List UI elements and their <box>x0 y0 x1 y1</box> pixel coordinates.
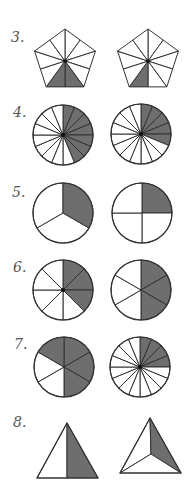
figure-6-right <box>111 260 171 320</box>
fraction-figures-canvas <box>0 0 192 497</box>
figure-8-right <box>120 418 181 473</box>
figure-6-left <box>33 260 93 320</box>
center-dot <box>138 365 142 369</box>
figure-4-left <box>33 105 93 165</box>
center-dot <box>63 59 67 63</box>
figure-7-left <box>34 337 94 397</box>
center-dot <box>146 59 150 63</box>
problem-number-5: 5. <box>12 184 25 200</box>
problem-number-3: 3. <box>11 29 24 45</box>
figure-8-left <box>37 423 98 478</box>
problem-number-6: 6. <box>13 259 26 275</box>
figure-4-right <box>111 104 171 164</box>
figure-5-left <box>33 183 93 243</box>
figure-3-right <box>118 29 179 87</box>
problem-number-7: 7. <box>14 336 27 352</box>
center-dot <box>139 132 143 136</box>
figure-7-right <box>110 337 170 397</box>
figure-3-left <box>35 29 96 87</box>
center-dot <box>61 288 65 292</box>
center-dot <box>61 133 65 137</box>
problem-number-8: 8. <box>13 414 26 430</box>
problem-number-4: 4. <box>13 104 26 120</box>
figure-5-right <box>112 183 172 243</box>
